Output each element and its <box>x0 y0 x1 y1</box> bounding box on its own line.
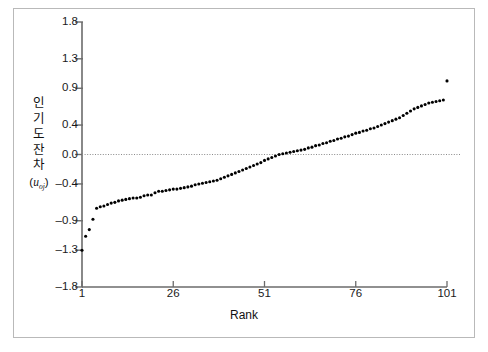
data-point <box>201 182 204 185</box>
data-point <box>121 199 124 202</box>
data-point <box>318 143 321 146</box>
data-point <box>179 187 182 190</box>
data-point <box>132 196 135 199</box>
data-point <box>321 142 324 145</box>
data-point <box>347 135 350 138</box>
data-point <box>380 124 383 127</box>
data-point <box>230 173 233 176</box>
x-axis-tick-label: 1 <box>79 287 85 299</box>
data-point <box>369 127 372 130</box>
data-point <box>263 159 266 162</box>
data-point <box>106 203 109 206</box>
data-point <box>299 149 302 152</box>
chart-figure: –1.8–1.3–0.9–0.40.00.40.91.31.8 12651761… <box>0 0 488 352</box>
data-point <box>307 146 310 149</box>
data-point <box>175 188 178 191</box>
data-point <box>292 150 295 153</box>
data-point <box>256 163 259 166</box>
x-axis-tick-labels: 1265176101 <box>0 287 488 303</box>
data-point <box>329 140 332 143</box>
data-point <box>405 112 408 115</box>
data-point <box>252 164 255 167</box>
data-point <box>365 129 368 132</box>
data-point <box>420 104 423 107</box>
data-point <box>310 146 313 149</box>
data-point <box>285 151 288 154</box>
data-point <box>362 129 365 132</box>
y-axis-tick-label: 1.3 <box>44 53 78 64</box>
data-point <box>157 190 160 193</box>
data-point <box>442 98 445 101</box>
data-point <box>267 157 270 160</box>
data-point <box>183 186 186 189</box>
data-point <box>394 118 397 121</box>
y-axis-tick-label: –0.9 <box>44 215 78 226</box>
data-point <box>146 193 149 196</box>
data-point <box>332 139 335 142</box>
data-point <box>124 198 127 201</box>
data-point <box>99 205 102 208</box>
data-point <box>372 126 375 129</box>
data-point <box>197 182 200 185</box>
y-axis-title-char: 차 <box>24 158 54 174</box>
data-point <box>402 114 405 117</box>
data-point <box>245 167 248 170</box>
data-point <box>164 189 167 192</box>
data-point <box>351 133 354 136</box>
data-point <box>409 110 412 113</box>
x-axis-tick-label: 101 <box>437 287 456 299</box>
x-axis-tick-label: 76 <box>349 287 362 299</box>
data-point <box>135 196 138 199</box>
data-point <box>325 141 328 144</box>
data-point <box>281 152 284 155</box>
data-point <box>270 156 273 159</box>
data-point <box>387 121 390 124</box>
x-axis-tick-label: 26 <box>167 287 180 299</box>
data-point <box>168 188 171 191</box>
y-axis-title-char: 기 <box>24 112 54 128</box>
data-point <box>143 194 146 197</box>
data-point <box>354 132 357 135</box>
data-point <box>113 201 116 204</box>
y-axis-title-char: 도 <box>24 127 54 143</box>
data-point <box>314 144 317 147</box>
data-point <box>194 183 197 186</box>
data-point <box>91 218 94 221</box>
data-point <box>237 170 240 173</box>
data-point <box>383 122 386 125</box>
data-point <box>172 188 175 191</box>
data-point <box>336 137 339 140</box>
data-point <box>208 180 211 183</box>
y-axis-title-symbol: (uoj) <box>24 175 54 195</box>
data-point <box>212 179 215 182</box>
data-point <box>413 107 416 110</box>
data-point <box>259 161 262 164</box>
data-point <box>431 101 434 104</box>
x-axis-title: Rank <box>0 308 488 322</box>
data-point <box>102 204 105 207</box>
y-axis-tick-label: –1.3 <box>44 244 78 255</box>
data-points <box>80 79 448 251</box>
data-point <box>161 190 164 193</box>
data-point <box>278 153 281 156</box>
data-point <box>153 191 156 194</box>
data-point <box>445 79 448 82</box>
data-point <box>234 171 237 174</box>
x-axis-tick-label: 51 <box>258 287 271 299</box>
data-point <box>216 179 219 182</box>
data-point <box>205 181 208 184</box>
data-point <box>435 100 438 103</box>
data-point <box>95 207 98 210</box>
data-point <box>398 116 401 119</box>
data-point <box>358 131 361 134</box>
data-point <box>226 174 229 177</box>
data-point <box>139 196 142 199</box>
y-axis-tick-label: 0.9 <box>44 82 78 93</box>
data-point <box>274 154 277 157</box>
data-point <box>438 99 441 102</box>
data-point <box>241 168 244 171</box>
data-point <box>340 137 343 140</box>
data-point <box>219 177 222 180</box>
data-point <box>343 135 346 138</box>
data-point <box>117 199 120 202</box>
